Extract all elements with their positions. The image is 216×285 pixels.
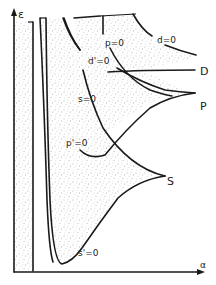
y-axis-label: ε	[18, 8, 24, 21]
region-label-D: D	[200, 65, 208, 78]
label-p-prime0: p'=0	[66, 138, 88, 148]
region-label-S: S	[167, 175, 174, 188]
label-s0: s=0	[78, 94, 96, 104]
label-p0: p=0	[105, 38, 124, 48]
band-structure-diagram: ε α s=0 d'=0 p=0 d=0 p'=0 s'=0 D P S	[0, 0, 216, 285]
label-d-prime0: d'=0	[88, 56, 110, 66]
region-label-P: P	[200, 100, 207, 113]
label-s-prime0: s'=0	[78, 248, 99, 258]
left-band	[14, 22, 33, 271]
x-axis-label: α	[200, 260, 206, 270]
y-axis-arrow-icon	[11, 8, 17, 16]
label-d0: d=0	[157, 35, 176, 45]
